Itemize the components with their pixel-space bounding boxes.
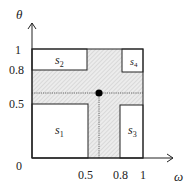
y-axis-label: θ [16,7,23,22]
diagram-canvas: θ ω 1 0.8 0.5 0 0.5 0.8 1 s1 s2 s3 s4 [0,0,195,187]
origin-label: 0 [16,159,22,173]
x-tick-0.8: 0.8 [113,168,128,182]
x-axis-label: ω [174,169,183,184]
diagram-figure: θ ω 1 0.8 0.5 0 0.5 0.8 1 s1 s2 s3 s4 [0,0,195,187]
x-tick-1: 1 [140,168,146,182]
equilibrium-point [95,89,102,96]
y-tick-0.8: 0.8 [9,63,24,77]
y-tick-0.5: 0.5 [9,97,24,111]
x-tick-0.5: 0.5 [78,168,93,182]
y-tick-1: 1 [15,43,21,57]
